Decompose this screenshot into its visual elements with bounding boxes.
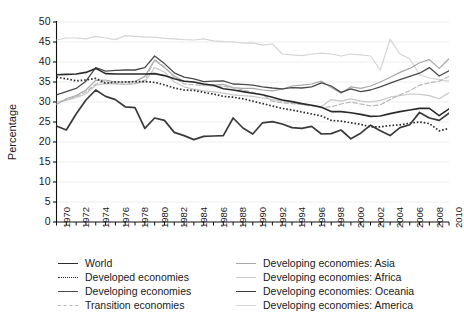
x-tick-label: 1972 xyxy=(80,207,91,228)
legend-swatch-icon xyxy=(58,300,78,310)
y-tick-label: 45 xyxy=(39,35,51,47)
legend-item-label: World xyxy=(85,258,112,268)
x-tick-label: 2000 xyxy=(355,207,366,228)
x-tick-label: 1978 xyxy=(139,207,150,228)
x-tick-label: 1988 xyxy=(237,207,248,228)
legend-item-label: Transition economies xyxy=(85,300,184,310)
legend-swatch-icon xyxy=(236,286,256,296)
legend-swatch-icon xyxy=(58,272,78,282)
x-tick-label: 2002 xyxy=(375,207,386,228)
x-tick-label: 1990 xyxy=(257,207,268,228)
legend-item[interactable]: Developing economies: Africa xyxy=(236,270,414,284)
legend-item-label: Developing economies: Asia xyxy=(263,258,395,268)
x-tick-label: 1998 xyxy=(335,207,346,228)
x-tick-label: 1980 xyxy=(159,207,170,228)
legend-column-right: Developing economies: AsiaDeveloping eco… xyxy=(236,256,414,312)
legend-swatch-icon xyxy=(58,286,78,296)
legend-swatch-icon xyxy=(58,258,78,268)
x-tick-label: 1982 xyxy=(178,207,189,228)
x-tick-label: 1984 xyxy=(198,207,209,228)
legend-item[interactable]: World xyxy=(58,256,191,270)
y-tick-label: 35 xyxy=(39,75,51,87)
x-tick-label: 1974 xyxy=(100,207,111,228)
x-tick-label: 2010 xyxy=(453,207,464,228)
legend-item-label: Developing economies xyxy=(85,286,191,296)
legend-swatch-icon xyxy=(236,300,256,310)
legend-item[interactable]: Developing economies xyxy=(58,284,191,298)
x-tick-label: 2008 xyxy=(434,207,445,228)
y-tick-label: 15 xyxy=(39,155,51,167)
legend-item[interactable]: Developed economies xyxy=(58,270,191,284)
legend-item[interactable]: Developing economies: Asia xyxy=(236,256,414,270)
y-tick-label: 30 xyxy=(39,95,51,107)
x-tick-label: 1986 xyxy=(218,207,229,228)
legend-swatch-icon xyxy=(236,258,256,268)
legend-item[interactable]: Transition economies xyxy=(58,298,191,312)
legend-item-label: Developing economies: Africa xyxy=(263,272,401,282)
x-tick-label: 2006 xyxy=(414,207,425,228)
x-tick-label: 1976 xyxy=(120,207,131,228)
y-tick-label: 25 xyxy=(39,115,51,127)
y-tick-label: 0 xyxy=(45,215,51,227)
legend-item[interactable]: Developing economies: Oceania xyxy=(236,284,414,298)
x-tick-label: 2004 xyxy=(394,207,405,228)
y-tick-label: 20 xyxy=(39,135,51,147)
y-tick-label: 40 xyxy=(39,55,51,67)
legend-item-label: Developed economies xyxy=(85,272,189,282)
chart-legend: WorldDeveloped economiesDeveloping econo… xyxy=(0,256,454,318)
x-tick-label: 1996 xyxy=(316,207,327,228)
legend-item[interactable]: Developing economies: America xyxy=(236,298,414,312)
legend-item-label: Developing economies: America xyxy=(263,300,413,310)
series-line xyxy=(57,68,450,116)
legend-item-label: Developing economies: Oceania xyxy=(263,286,414,296)
y-tick-label: 10 xyxy=(39,175,51,187)
x-tick-label: 1994 xyxy=(296,207,307,228)
y-tick-label: 50 xyxy=(39,15,51,27)
x-tick-label: 1970 xyxy=(61,207,72,228)
legend-swatch-icon xyxy=(236,272,256,282)
x-tick-label: 1992 xyxy=(277,207,288,228)
y-tick-label: 5 xyxy=(45,195,51,207)
legend-column-left: WorldDeveloped economiesDeveloping econo… xyxy=(58,256,191,312)
